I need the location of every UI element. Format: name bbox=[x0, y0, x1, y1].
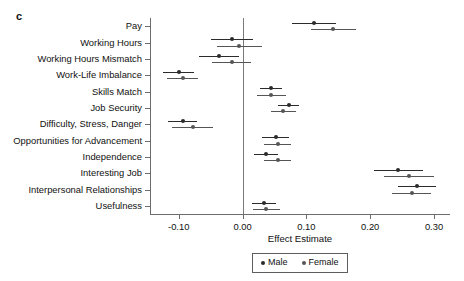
data-point bbox=[281, 109, 285, 113]
y-tick bbox=[145, 173, 150, 174]
y-axis-label: Skills Match bbox=[92, 87, 142, 97]
y-axis-line bbox=[150, 18, 151, 214]
x-axis-tick-label: 0.30 bbox=[425, 221, 443, 232]
x-tick bbox=[243, 214, 244, 219]
x-tick bbox=[179, 214, 180, 219]
y-tick bbox=[145, 206, 150, 207]
legend-dot-icon bbox=[302, 261, 306, 265]
y-tick bbox=[145, 157, 150, 158]
data-point bbox=[264, 207, 268, 211]
data-point bbox=[262, 201, 266, 205]
y-axis-label: Interpersonal Relationships bbox=[28, 185, 142, 195]
data-point bbox=[276, 158, 280, 162]
data-point bbox=[410, 191, 414, 195]
data-point bbox=[276, 142, 280, 146]
data-point bbox=[331, 27, 335, 31]
data-point bbox=[237, 44, 241, 48]
y-tick bbox=[145, 124, 150, 125]
y-tick bbox=[145, 75, 150, 76]
figure-panel-c: c PayWorking HoursWorking Hours Mismatch… bbox=[0, 0, 464, 281]
y-tick bbox=[145, 43, 150, 44]
x-axis-tick-label: 0.10 bbox=[297, 221, 315, 232]
x-tick bbox=[306, 214, 307, 219]
x-axis-title: Effect Estimate bbox=[150, 233, 450, 244]
y-axis-label: Work-Life Imbalance bbox=[56, 70, 142, 80]
legend-dot-icon bbox=[261, 261, 265, 265]
x-tick bbox=[434, 214, 435, 219]
legend-label: Female bbox=[309, 258, 339, 267]
y-axis-label: Usefulness bbox=[96, 201, 142, 211]
y-tick bbox=[145, 190, 150, 191]
y-axis-label: Working Hours bbox=[80, 38, 142, 48]
y-axis-label: Working Hours Mismatch bbox=[37, 54, 142, 64]
data-point bbox=[230, 60, 234, 64]
y-tick bbox=[145, 26, 150, 27]
data-point bbox=[181, 119, 185, 123]
x-axis-tick-label: 0.20 bbox=[361, 221, 379, 232]
y-axis-label: Opportunities for Advancement bbox=[13, 136, 142, 146]
y-axis-label: Difficulty, Stress, Danger bbox=[40, 119, 142, 129]
y-tick bbox=[145, 92, 150, 93]
data-point bbox=[191, 125, 195, 129]
x-axis-line bbox=[150, 214, 450, 215]
y-axis-label: Job Security bbox=[90, 103, 142, 113]
y-tick bbox=[145, 141, 150, 142]
legend-item-male[interactable]: Male bbox=[261, 258, 288, 267]
y-axis-label: Interesting Job bbox=[81, 168, 143, 178]
plot-area bbox=[150, 18, 450, 214]
panel-label: c bbox=[16, 10, 22, 22]
data-point bbox=[407, 174, 411, 178]
data-point bbox=[217, 54, 221, 58]
data-point bbox=[269, 93, 273, 97]
data-point bbox=[274, 135, 278, 139]
data-point bbox=[287, 103, 291, 107]
data-point bbox=[264, 152, 268, 156]
legend-label: Male bbox=[268, 258, 288, 267]
y-axis-label: Independence bbox=[83, 152, 142, 162]
data-point bbox=[230, 37, 234, 41]
legend-item-female[interactable]: Female bbox=[302, 258, 339, 267]
y-tick bbox=[145, 108, 150, 109]
data-point bbox=[181, 76, 185, 80]
y-axis-label: Pay bbox=[126, 21, 142, 31]
x-axis-tick-label: 0.00 bbox=[233, 221, 251, 232]
data-point bbox=[269, 86, 273, 90]
legend: MaleFemale bbox=[252, 253, 348, 273]
data-point bbox=[177, 70, 181, 74]
data-point bbox=[396, 168, 400, 172]
data-point bbox=[415, 184, 419, 188]
y-tick bbox=[145, 59, 150, 60]
data-point bbox=[312, 21, 316, 25]
zero-reference-line bbox=[243, 18, 244, 214]
x-axis-tick-label: -0.10 bbox=[168, 221, 189, 232]
x-tick bbox=[370, 214, 371, 219]
